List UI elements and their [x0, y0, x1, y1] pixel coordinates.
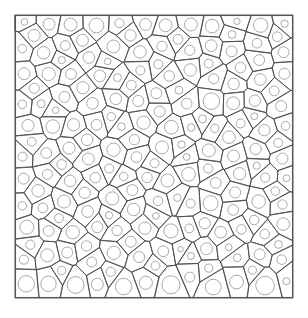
inscribed-circle [227, 97, 240, 110]
voronoi-cell [119, 72, 144, 98]
voronoi-cell [15, 133, 48, 155]
inscribed-circle [174, 194, 181, 201]
inscribed-circle [41, 148, 52, 159]
voronoi-cell [219, 41, 245, 65]
inscribed-circle [133, 95, 144, 106]
inscribed-circle [279, 68, 290, 79]
inscribed-circle [205, 19, 219, 33]
inscribed-circle [125, 30, 136, 41]
inscribed-circle [46, 120, 60, 134]
inscribed-circle [254, 55, 265, 66]
inscribed-circle [52, 107, 59, 114]
voronoi-cell [242, 107, 267, 129]
voronoi-cell [52, 33, 79, 60]
inscribed-circle [205, 40, 217, 52]
inscribed-circle [66, 226, 79, 239]
inscribed-circle [107, 246, 120, 259]
voronoi-cell [32, 139, 60, 167]
inscribed-circle [18, 100, 27, 109]
inscribed-circle [281, 121, 290, 130]
inscribed-circle [188, 252, 195, 259]
inscribed-circle [185, 272, 195, 282]
voronoi-cells-layer [15, 15, 293, 298]
inscribed-circle [82, 153, 94, 165]
voronoi-cell [60, 110, 86, 137]
voronoi-cell [15, 214, 39, 239]
inscribed-circle [276, 101, 287, 112]
inscribed-circle [253, 162, 260, 169]
inscribed-circle [42, 169, 52, 179]
inscribed-circle [136, 66, 145, 75]
inscribed-circle [251, 113, 258, 120]
inscribed-circle [162, 276, 180, 294]
inscribed-circle [18, 44, 26, 52]
inscribed-circle [90, 172, 100, 182]
inscribed-circle [233, 168, 245, 180]
inscribed-circle [230, 275, 244, 289]
inscribed-circle [107, 143, 120, 156]
inscribed-circle [181, 98, 192, 109]
inscribed-circle [58, 57, 65, 64]
voronoi-cell [118, 128, 150, 150]
voronoi-cell [244, 88, 267, 112]
voronoi-cell [101, 260, 124, 287]
voronoi-cell [149, 52, 173, 81]
inscribed-circle [249, 95, 260, 106]
voronoi-cell [199, 188, 223, 218]
inscribed-circle [272, 32, 282, 42]
voronoi-cell [103, 62, 130, 89]
inscribed-circle [269, 86, 279, 96]
voronoi-cell [15, 236, 44, 258]
voronoi-cell [198, 259, 223, 282]
voronoi-cell [274, 113, 293, 142]
voronoi-cell [193, 268, 231, 298]
inscribed-circle [152, 213, 159, 220]
inscribed-circle [260, 229, 270, 239]
inscribed-circle [151, 261, 160, 270]
inscribed-circle [104, 58, 111, 65]
inscribed-circle [81, 134, 93, 146]
inscribed-circle [205, 279, 221, 295]
inscribed-circle [87, 257, 97, 267]
voronoi-cell [58, 218, 88, 244]
inscribed-circle [92, 221, 103, 232]
voronoi-cell [221, 70, 248, 94]
inscribed-circle [185, 224, 194, 233]
inscribed-circle [81, 241, 91, 251]
voronoi-cell [247, 68, 275, 93]
inscribed-circle [67, 119, 79, 131]
inscribed-circle [178, 247, 183, 252]
inscribed-circle [233, 254, 241, 262]
voronoi-cell [250, 163, 278, 189]
inscribed-circle [173, 34, 183, 44]
inscribed-circle [105, 164, 114, 173]
voronoi-cell [55, 167, 84, 195]
inscribed-circle [158, 246, 169, 257]
inscribed-circle [66, 69, 77, 80]
inscribed-circle [186, 199, 195, 208]
inscribed-circle [252, 38, 262, 48]
inscribed-circle [107, 40, 120, 53]
inscribed-circle [271, 187, 280, 196]
voronoi-cell [192, 107, 214, 135]
voronoi-cell [268, 23, 291, 49]
inscribed-circle [125, 236, 136, 247]
inscribed-circle [127, 203, 140, 216]
inscribed-circle [129, 135, 139, 145]
voronoi-cell [15, 139, 33, 168]
inscribed-circle [22, 119, 34, 131]
inscribed-circle [283, 175, 290, 182]
inscribed-circle [202, 144, 215, 157]
voronoi-cell [83, 111, 108, 140]
inscribed-circle [281, 20, 288, 27]
voronoi-cell [248, 242, 273, 267]
inscribed-circle [157, 41, 167, 51]
inscribed-circle [43, 226, 54, 237]
inscribed-circle [283, 278, 290, 285]
inscribed-circle [278, 47, 289, 58]
voronoi-cell [221, 243, 250, 267]
voronoi-cell [15, 269, 39, 298]
inscribed-circle [250, 143, 261, 154]
voronoi-cell [152, 15, 178, 37]
voronoi-cell [51, 50, 75, 70]
